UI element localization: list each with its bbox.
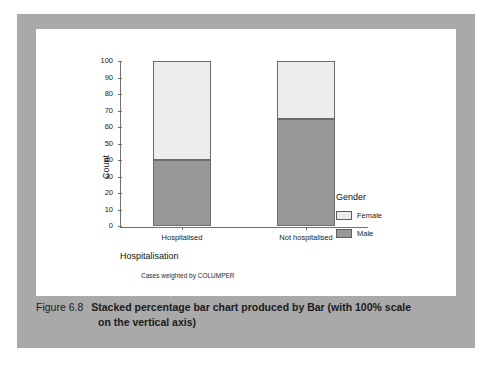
y-tick-label: 30 [105, 172, 113, 181]
figure-number: Figure 6.8 [36, 300, 91, 315]
y-tick: 90 [118, 78, 122, 79]
legend-item-male[interactable]: Male [336, 229, 446, 238]
y-tick: 80 [118, 94, 122, 95]
legend-label-female: Female [357, 211, 382, 220]
y-tick-label: 60 [105, 122, 113, 131]
y-tick: 40 [118, 160, 122, 161]
x-axis-title: Hospitalisation [120, 251, 179, 261]
y-tick: 50 [118, 144, 122, 145]
bar-segment-female [277, 61, 335, 119]
x-axis-line [120, 227, 368, 228]
y-tick: 100 [118, 61, 122, 62]
bar[interactable] [153, 61, 211, 226]
x-tick [306, 227, 307, 230]
legend-title: Gender [336, 192, 446, 202]
plot-area: 0102030405060708090100HospitalisedNot ho… [120, 61, 368, 227]
y-tick-label: 100 [100, 56, 113, 65]
y-tick-label: 40 [105, 155, 113, 164]
legend-item-female[interactable]: Female [336, 211, 446, 220]
figure-caption-line2: on the vertical axis) [98, 315, 460, 330]
y-tick: 10 [118, 210, 122, 211]
figure-caption-line1: Stacked percentage bar chart produced by… [91, 300, 411, 315]
y-tick-label: 70 [105, 106, 113, 115]
bar-segment-male [153, 160, 211, 226]
x-tick-label: Not hospitalised [279, 233, 332, 242]
y-tick: 0 [118, 226, 122, 227]
legend-swatch-male-icon [336, 229, 352, 238]
y-tick-label: 90 [105, 73, 113, 82]
stacked-bar-chart: Count 0102030405060708090100Hospitalised… [36, 29, 456, 296]
figure-caption: Figure 6.8 Stacked percentage bar chart … [36, 300, 460, 344]
y-tick: 30 [118, 177, 122, 178]
y-tick: 60 [118, 127, 122, 128]
x-tick-label: Hospitalised [162, 233, 203, 242]
chart-footnote: Cases weighted by COLUMPER [141, 272, 235, 279]
bar-segment-male [277, 119, 335, 226]
legend: Gender Female Male [336, 192, 446, 247]
y-tick-label: 10 [105, 205, 113, 214]
x-tick [182, 227, 183, 230]
y-tick-label: 20 [105, 188, 113, 197]
legend-swatch-female-icon [336, 211, 352, 220]
y-tick: 20 [118, 193, 122, 194]
figure-root: Count 0102030405060708090100Hospitalised… [0, 0, 492, 368]
y-tick-label: 0 [109, 221, 113, 230]
y-tick: 70 [118, 111, 122, 112]
bar[interactable] [277, 61, 335, 226]
chart-page: Count 0102030405060708090100Hospitalised… [36, 29, 456, 296]
y-tick-label: 50 [105, 139, 113, 148]
bar-segment-female [153, 61, 211, 160]
y-tick-label: 80 [105, 89, 113, 98]
legend-label-male: Male [357, 229, 373, 238]
